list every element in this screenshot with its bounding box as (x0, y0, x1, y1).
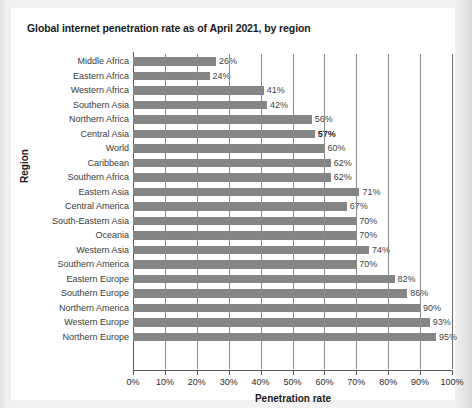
x-axis-tick (420, 370, 421, 375)
bar (133, 289, 407, 298)
category-label: World (106, 141, 129, 156)
gridline (420, 54, 421, 369)
bar-value-label: 82% (398, 272, 416, 287)
gridline (324, 54, 325, 369)
bar-value-label: 95% (439, 330, 457, 345)
bar (133, 101, 267, 110)
bar-value-label: 41% (267, 83, 285, 98)
gridline (356, 54, 357, 369)
bar (133, 188, 359, 197)
category-label: Central Asia (80, 127, 129, 142)
x-axis-tick-label: 40% (252, 377, 270, 387)
x-axis-tick (261, 370, 262, 375)
gridline (293, 54, 294, 369)
category-label: Western Africa (71, 83, 129, 98)
bar-value-label: 67% (350, 199, 368, 214)
bar (133, 246, 369, 255)
category-label: Eastern Asia (78, 185, 129, 200)
x-axis-tick-label: 60% (315, 377, 333, 387)
y-axis-title: Region (19, 149, 30, 183)
category-label: Eastern Africa (73, 69, 129, 84)
category-label: Southern Africa (67, 170, 129, 185)
x-axis-title: Penetration rate (133, 393, 453, 404)
chart-title: Global internet penetration rate as of A… (27, 22, 437, 35)
bar (133, 130, 315, 139)
x-axis-tick (165, 370, 166, 375)
x-axis-tick-label: 80% (379, 377, 397, 387)
category-label: Southern Asia (73, 98, 129, 113)
x-axis-tick-label: 0% (126, 377, 139, 387)
plot-area: Middle Africa26%Eastern Africa24%Western… (133, 54, 452, 369)
x-axis-tick (324, 370, 325, 375)
bar-value-label: 70% (359, 214, 377, 229)
category-label: Caribbean (87, 156, 129, 171)
gridline (452, 54, 453, 369)
x-axis-tick (197, 370, 198, 375)
category-label: Southern America (57, 257, 129, 272)
bar-value-label: 90% (423, 301, 441, 316)
bar (133, 318, 430, 327)
bar (133, 86, 264, 95)
category-label: Northern Europe (62, 330, 129, 345)
gridline (261, 54, 262, 369)
x-axis-tick (356, 370, 357, 375)
category-label: Western Europe (64, 315, 129, 330)
bar-value-label: 57% (318, 127, 336, 142)
bar (133, 231, 356, 240)
bar-value-label: 62% (334, 170, 352, 185)
x-axis-tick-label: 50% (283, 377, 301, 387)
bar-value-label: 70% (359, 228, 377, 243)
category-label: Central America (65, 199, 129, 214)
x-axis-tick-label: 70% (347, 377, 365, 387)
category-label: Western Asia (76, 243, 129, 258)
bar (133, 260, 356, 269)
bar (133, 57, 216, 66)
bar (133, 333, 436, 342)
gridline (197, 54, 198, 369)
bar-value-label: 70% (359, 257, 377, 272)
category-label: South-Eastern Asia (52, 214, 129, 229)
x-axis-tick-label: 10% (156, 377, 174, 387)
bar (133, 173, 331, 182)
gridline (388, 54, 389, 369)
chart-card: Global internet penetration rate as of A… (11, 8, 455, 400)
bar (133, 304, 420, 313)
bar-value-label: 71% (362, 185, 380, 200)
category-label: Northern Africa (69, 112, 129, 127)
x-axis-tick (452, 370, 453, 375)
x-axis-tick-label: 20% (188, 377, 206, 387)
x-axis-tick (133, 370, 134, 375)
gridline (229, 54, 230, 369)
x-axis-tick (229, 370, 230, 375)
screenshot-canvas: Global internet penetration rate as of A… (0, 0, 472, 408)
x-axis-tick (293, 370, 294, 375)
category-label: Southern Europe (61, 286, 129, 301)
category-label: Middle Africa (77, 54, 129, 69)
category-label: Northern America (59, 301, 129, 316)
x-axis-tick (388, 370, 389, 375)
bar (133, 115, 312, 124)
bar-value-label: 93% (433, 315, 451, 330)
gridline (165, 54, 166, 369)
bar (133, 217, 356, 226)
x-axis-tick-label: 100% (440, 377, 463, 387)
category-label: Eastern Europe (66, 272, 129, 287)
x-axis-tick-label: 90% (411, 377, 429, 387)
bar-value-label: 42% (270, 98, 288, 113)
bar (133, 159, 331, 168)
bar-value-label: 60% (327, 141, 345, 156)
bar (133, 72, 210, 81)
category-label: Oceania (95, 228, 129, 243)
bar-value-label: 62% (334, 156, 352, 171)
x-axis-tick-label: 30% (220, 377, 238, 387)
